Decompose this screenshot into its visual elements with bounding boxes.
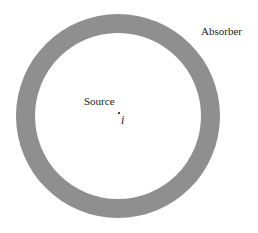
absorber-label: Absorber bbox=[201, 25, 242, 37]
absorber-ring bbox=[16, 14, 220, 218]
source-label: Source bbox=[84, 95, 115, 107]
point-i-label: i bbox=[121, 113, 124, 128]
source-point bbox=[118, 112, 120, 114]
